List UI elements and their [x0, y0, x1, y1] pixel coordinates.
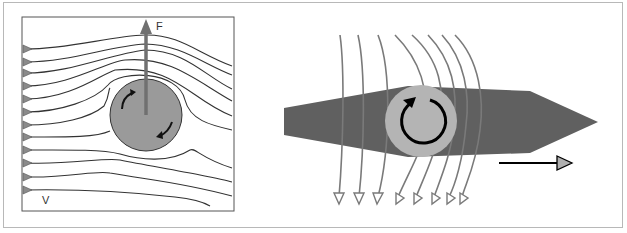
- velocity-label: V: [42, 194, 50, 206]
- magnus-diagram: F V: [0, 0, 627, 233]
- flow-arrowheads: [334, 193, 468, 204]
- force-label: F: [156, 20, 163, 32]
- left-panel: F V: [22, 17, 234, 211]
- motion-arrow: [499, 156, 572, 170]
- right-panel: [284, 35, 598, 204]
